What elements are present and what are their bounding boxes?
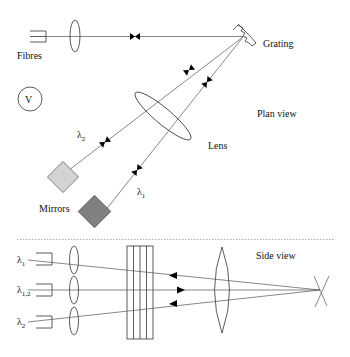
beam-marker-icon bbox=[130, 33, 140, 40]
ray-lambda2 bbox=[28, 290, 320, 322]
plan-view-label: Plan view bbox=[257, 108, 297, 119]
fibre-label-lambda1: λ1 bbox=[17, 254, 26, 268]
mirrors-label: Mirrors bbox=[39, 203, 70, 214]
grating-label: Grating bbox=[263, 38, 294, 49]
arrow-icon bbox=[169, 272, 177, 279]
fibres-label: Fibres bbox=[17, 50, 42, 61]
grating-icon bbox=[233, 24, 256, 46]
mirror-lambda1-icon bbox=[78, 195, 111, 228]
side-view: Side view λ1 λ1,2 λ2 bbox=[17, 246, 329, 339]
focus-cross-icon bbox=[314, 276, 329, 307]
side-view-label: Side view bbox=[256, 250, 296, 261]
beam-marker-icon bbox=[183, 64, 195, 76]
arrow-icon bbox=[177, 287, 185, 294]
beam-lambda1 bbox=[93, 37, 243, 226]
lambda1-label: λ1 bbox=[137, 186, 146, 200]
lens-label: Lens bbox=[208, 140, 228, 151]
optical-diagram: Fibres Grating bbox=[0, 0, 350, 357]
fibre-lens-icon bbox=[70, 246, 79, 274]
fibre-lens-icon bbox=[70, 307, 79, 335]
lambda2-label: λ2 bbox=[77, 129, 86, 143]
v-symbol-label: V bbox=[25, 94, 33, 105]
collimator-lens-icon bbox=[70, 20, 80, 52]
fibre-bundle-icon bbox=[30, 31, 46, 42]
fibre-icon bbox=[36, 316, 52, 328]
v-symbol: V bbox=[18, 87, 42, 111]
stacked-plates-icon bbox=[127, 246, 153, 339]
plan-view: Fibres Grating bbox=[17, 20, 297, 228]
fibre-icon bbox=[36, 253, 52, 265]
fibre-label-lambda2: λ2 bbox=[17, 316, 26, 330]
fibre-label-lambda12: λ1,2 bbox=[17, 284, 31, 298]
